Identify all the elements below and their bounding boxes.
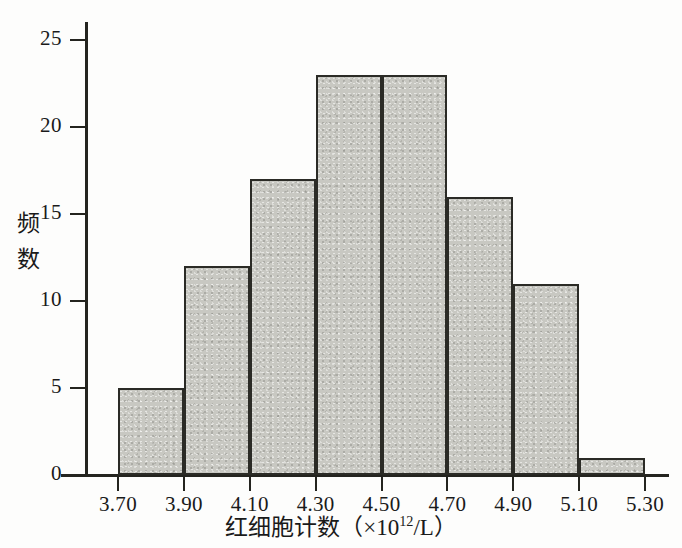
- x-tick-mark: [446, 474, 448, 491]
- histogram-bar: [447, 197, 513, 475]
- histogram-figure: 0510152025 3.703.904.104.304.504.704.905…: [0, 0, 682, 548]
- x-tick-mark: [117, 474, 119, 491]
- x-tick-mark: [578, 474, 580, 491]
- histogram-bar: [513, 284, 579, 475]
- y-tick-mark: [70, 126, 86, 128]
- y-tick-group: 25: [0, 39, 86, 41]
- y-tick-mark: [70, 474, 86, 476]
- y-tick-group: 0: [0, 474, 86, 476]
- y-tick-mark: [70, 213, 86, 215]
- y-axis-line: [85, 22, 88, 477]
- x-axis-title-per-unit: /L: [413, 515, 433, 540]
- x-tick-mark: [183, 474, 185, 491]
- y-tick-group: 10: [0, 300, 86, 302]
- histogram-bar: [118, 388, 184, 475]
- histogram-bar: [250, 179, 316, 475]
- x-tick-mark: [381, 474, 383, 491]
- y-tick-mark: [70, 387, 86, 389]
- y-tick-label: 5: [18, 376, 62, 397]
- x-axis-title-exponent: 12: [399, 513, 413, 529]
- x-tick-mark: [644, 474, 646, 491]
- x-tick-mark: [512, 474, 514, 491]
- x-axis-title-base: 10: [376, 515, 399, 540]
- plot-area: 0510152025 3.703.904.104.304.504.704.905…: [0, 0, 682, 548]
- y-tick-label: 10: [18, 289, 62, 310]
- y-tick-group: 20: [0, 126, 86, 128]
- y-axis-title-char-2: 数: [8, 241, 48, 277]
- x-axis-title-open-paren: （: [340, 514, 363, 540]
- x-axis-title-close-paren: ）: [434, 514, 457, 540]
- x-axis-title-times: ×: [363, 515, 376, 540]
- y-tick-label: 25: [18, 28, 62, 49]
- histogram-bar: [382, 75, 448, 475]
- y-tick-mark: [70, 39, 86, 41]
- x-axis-title-name: 红细胞计数: [225, 514, 340, 540]
- x-tick-mark: [249, 474, 251, 491]
- histogram-bar: [184, 266, 250, 475]
- histogram-bar: [316, 75, 382, 475]
- histogram-bar: [579, 458, 645, 475]
- y-tick-label: 0: [18, 463, 62, 484]
- x-axis-title: 红细胞计数（×1012/L）: [0, 513, 682, 542]
- x-tick-mark: [315, 474, 317, 491]
- y-tick-label: 20: [18, 115, 62, 136]
- y-axis-title: 频 数: [8, 205, 48, 277]
- y-tick-group: 5: [0, 387, 86, 389]
- y-axis-title-char-1: 频: [8, 205, 48, 241]
- y-tick-mark: [70, 300, 86, 302]
